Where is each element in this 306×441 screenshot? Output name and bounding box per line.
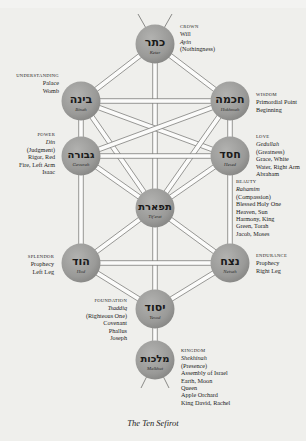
attribute-line: Abraham bbox=[256, 170, 300, 177]
attribute-line: Fire, Left Arm bbox=[2, 161, 55, 168]
sefirah-attributes-hod: SPLENDORProphecyLeft Leg bbox=[2, 253, 54, 275]
sefirah-hebrew-name: גבורה bbox=[68, 149, 95, 160]
attribute-line: Phallus bbox=[2, 327, 127, 334]
attribute-line: Jacob, Moses bbox=[236, 230, 281, 237]
attribute-line: (Righteous One) bbox=[2, 312, 127, 319]
sefirah-hokhmah: חכמהHokhmah bbox=[211, 82, 250, 121]
attribute-line: Apple Orchard bbox=[181, 391, 230, 398]
sefirah-gevurah: גבורהGevurah bbox=[62, 137, 101, 176]
path-channel bbox=[81, 99, 230, 104]
attribute-line: Primordial Point bbox=[256, 98, 297, 105]
attribute-line: Queen bbox=[181, 384, 230, 391]
figure-caption: The Ten Sefirot bbox=[0, 418, 306, 428]
path-hod-netsah bbox=[81, 261, 230, 266]
sefirah-hebrew-name: הוד bbox=[72, 255, 90, 268]
attribute-line: Rahamim bbox=[236, 185, 281, 192]
attribute-heading: BEAUTY bbox=[236, 178, 281, 185]
attribute-heading: WISDOM bbox=[256, 91, 297, 98]
attribute-line: Shekhinah bbox=[181, 354, 230, 361]
path-binah-hokhmah bbox=[81, 99, 230, 104]
sefirah-hebrew-name: כתר bbox=[145, 36, 165, 49]
sefirah-binah: בינהBinah bbox=[62, 82, 101, 121]
attribute-line: Gedullah bbox=[256, 140, 300, 147]
attribute-heading: KINGDOM bbox=[181, 347, 230, 354]
sefirah-hebrew-name: נצח bbox=[220, 255, 240, 268]
attribute-line: Womb bbox=[2, 87, 59, 94]
sefirah-transliteration: Tif'eret bbox=[148, 214, 162, 219]
sefirah-hebrew-name: מלכות bbox=[140, 353, 169, 364]
sefirah-attributes-hesed: LOVEGedullah(Greatness)Grace, WhiteWater… bbox=[256, 133, 300, 177]
attribute-line: Isaac bbox=[2, 168, 55, 175]
sefirah-hebrew-name: חסד bbox=[219, 148, 241, 161]
attribute-line: Ayin bbox=[180, 38, 215, 45]
attribute-line: Tsaddiq bbox=[2, 304, 127, 311]
sefirah-transliteration: Hod bbox=[76, 269, 86, 274]
sefirah-transliteration: Keter bbox=[149, 50, 161, 55]
sefirah-malkhut: מלכותMalkhut bbox=[136, 341, 175, 380]
sefirah-yesod: יסודYesod bbox=[136, 290, 175, 329]
sefirah-hebrew-name: תפארת bbox=[138, 201, 172, 212]
attribute-line: Earth, Moon bbox=[181, 377, 230, 384]
attribute-line: Assembly of Israel bbox=[181, 369, 230, 376]
attribute-line: Right Leg bbox=[256, 267, 287, 274]
sefirah-transliteration: Binah bbox=[75, 107, 87, 112]
sefirah-attributes-yesod: FOUNDATIONTsaddiq(Righteous One)Covenant… bbox=[2, 297, 127, 341]
sefirah-tiferet: תפארתTif'eret bbox=[136, 189, 175, 228]
sefirah-transliteration: Netsah bbox=[222, 269, 237, 274]
path-channel bbox=[81, 261, 230, 266]
attribute-line: (Presence) bbox=[181, 362, 230, 369]
attribute-line: Harmony, King bbox=[236, 215, 281, 222]
sefirah-transliteration: Malkhut bbox=[146, 366, 164, 371]
attribute-line: Covenant bbox=[2, 319, 127, 326]
sefirah-transliteration: Yesod bbox=[149, 315, 161, 320]
attribute-line: Blessed Holy One bbox=[236, 200, 281, 207]
attribute-line: (Compassion) bbox=[236, 193, 281, 200]
attribute-line: Heaven, Sun bbox=[236, 208, 281, 215]
attribute-line: Palace bbox=[2, 79, 59, 86]
attribute-line: Prophecy bbox=[256, 259, 287, 266]
attribute-line: Prophecy bbox=[2, 260, 54, 267]
sefirah-transliteration: Hokhmah bbox=[220, 107, 240, 112]
attribute-heading: FOUNDATION bbox=[2, 297, 127, 304]
path-gevurah-hesed bbox=[81, 154, 230, 159]
attribute-line: (Judgment) bbox=[2, 146, 55, 153]
sefirah-hebrew-name: בינה bbox=[70, 93, 93, 106]
attribute-line: (Greatness) bbox=[256, 148, 300, 155]
sefirah-hebrew-name: חכמה bbox=[215, 93, 244, 106]
attribute-line: Rigor, Red bbox=[2, 153, 55, 160]
sefirah-attributes-malkhut: KINGDOMShekhinah(Presence)Assembly of Is… bbox=[181, 347, 230, 406]
sefirah-attributes-hokhmah: WISDOMPrimordial PointBeginning bbox=[256, 91, 297, 113]
attribute-line: Grace, White bbox=[256, 155, 300, 162]
sefirah-attributes-binah: UNDERSTANDINGPalaceWomb bbox=[2, 72, 59, 94]
attribute-heading: ENDURANCE bbox=[256, 252, 287, 259]
sefirah-attributes-tiferet: BEAUTYRahamim(Compassion)Blessed Holy On… bbox=[236, 178, 281, 237]
attribute-heading: LOVE bbox=[256, 133, 300, 140]
sefirah-hebrew-name: יסוד bbox=[145, 301, 166, 314]
attribute-line: (Nothingness) bbox=[180, 45, 215, 52]
attribute-line: Left Leg bbox=[2, 268, 54, 275]
sefirah-transliteration: Hesed bbox=[223, 162, 237, 167]
sefirah-attributes-netsah: ENDURANCEProphecyRight Leg bbox=[256, 252, 287, 274]
sefirah-keter: כתרKeter bbox=[136, 25, 175, 64]
attribute-line: Green, Torah bbox=[236, 222, 281, 229]
path-channel bbox=[81, 154, 230, 159]
attribute-heading: UNDERSTANDING bbox=[2, 72, 59, 79]
sefirah-transliteration: Gevurah bbox=[73, 162, 90, 167]
attribute-line: King David, Rachel bbox=[181, 399, 230, 406]
sefirah-netsah: נצחNetsah bbox=[211, 244, 250, 283]
sefirah-attributes-gevurah: POWERDin(Judgment)Rigor, RedFire, Left A… bbox=[2, 131, 55, 175]
sefirah-hesed: חסדHesed bbox=[211, 137, 250, 176]
sefirah-hod: הודHod bbox=[62, 244, 101, 283]
attribute-line: Joseph bbox=[2, 334, 127, 341]
attribute-line: Beginning bbox=[256, 106, 297, 113]
attribute-heading: POWER bbox=[2, 131, 55, 138]
sefirah-attributes-keter: CROWNWillAyin(Nothingness) bbox=[180, 23, 215, 53]
attribute-heading: SPLENDOR bbox=[2, 253, 54, 260]
attribute-line: Din bbox=[2, 138, 55, 145]
attribute-heading: CROWN bbox=[180, 23, 215, 30]
attribute-line: Water, Right Arm bbox=[256, 163, 300, 170]
attribute-line: Will bbox=[180, 30, 215, 37]
